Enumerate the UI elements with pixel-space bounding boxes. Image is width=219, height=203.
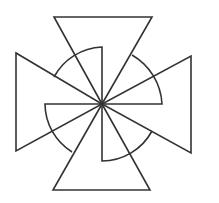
pinwheel-diagram [0, 0, 219, 203]
sector-top-left [54, 47, 102, 104]
sector-top-right [102, 55, 162, 104]
triangle-top [54, 17, 152, 104]
sector-bottom-left [45, 104, 102, 152]
sector-bottom-right [102, 104, 152, 161]
triangle-left [16, 53, 102, 151]
triangles [16, 17, 191, 190]
